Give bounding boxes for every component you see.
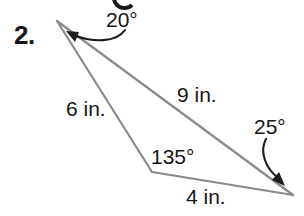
- triangle-svg: [0, 0, 304, 216]
- angle-a-leader-curve: [76, 30, 125, 40]
- angle-c-leader: [263, 139, 285, 186]
- angle-label-20-degrees: 20°: [106, 9, 138, 30]
- angle-a-leader: [66, 30, 125, 42]
- side-label-4-inches: 4 in.: [186, 186, 226, 207]
- problem-number-label: 2.: [14, 22, 35, 48]
- side-label-6-inches: 6 in.: [66, 98, 106, 119]
- angle-label-135-degrees: 135°: [151, 146, 194, 167]
- angle-label-25-degrees: 25°: [254, 116, 286, 137]
- side-label-9-inches: 9 in.: [177, 84, 217, 105]
- angle-c-leader-curve: [263, 139, 277, 177]
